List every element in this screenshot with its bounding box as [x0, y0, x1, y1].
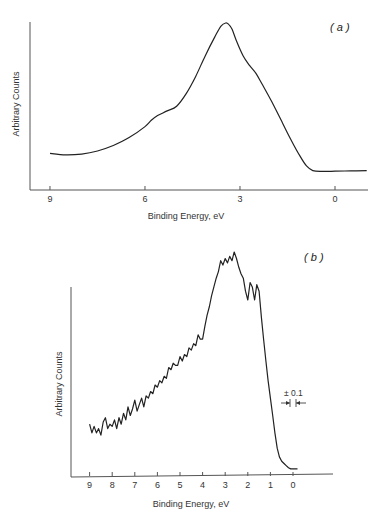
x-tick-label: 0: [290, 480, 295, 490]
chart-b-x-axis-label: Binding Energy, eV: [153, 499, 229, 509]
left-arrow-icon: [286, 401, 290, 405]
right-arrow-icon: [296, 401, 300, 405]
x-tick-label: 6: [142, 194, 147, 204]
chart-a: 9630 ( a ) Arbitrary Counts Binding Ener…: [11, 21, 368, 221]
chart-b-y-axis-label: Arbitrary Counts: [54, 351, 64, 417]
x-tick-label: 3: [223, 480, 228, 490]
x-tick-label: 5: [177, 480, 182, 490]
chart-b-panel-label: ( b ): [304, 251, 324, 263]
chart-b: 9876543210 ( b ) Arbitrary Counts Bindin…: [54, 251, 333, 509]
chart-b-spectrum-line: [90, 252, 298, 469]
x-tick-label: 1: [268, 480, 273, 490]
x-tick-label: 2: [245, 480, 250, 490]
x-tick-label: 9: [47, 194, 52, 204]
figure: 9630 ( a ) Arbitrary Counts Binding Ener…: [0, 0, 375, 512]
resolution-label: ± 0.1: [284, 388, 303, 398]
x-tick-label: 9: [87, 480, 92, 490]
chart-b-x-axis: [71, 474, 333, 477]
resolution-annotation: ± 0.1: [281, 388, 306, 407]
chart-a-panel-label: ( a ): [330, 21, 350, 33]
x-tick-label: 3: [237, 194, 242, 204]
chart-a-x-axis-label: Binding Energy, eV: [148, 211, 224, 221]
chart-a-x-ticks: 9630: [47, 186, 337, 204]
x-tick-label: 7: [132, 480, 137, 490]
x-tick-label: 0: [332, 194, 337, 204]
x-tick-label: 8: [110, 480, 115, 490]
x-tick-label: 4: [200, 480, 205, 490]
chart-a-y-axis-label: Arbitrary Counts: [11, 71, 21, 137]
chart-a-spectrum-line: [50, 23, 367, 171]
x-tick-label: 6: [155, 480, 160, 490]
